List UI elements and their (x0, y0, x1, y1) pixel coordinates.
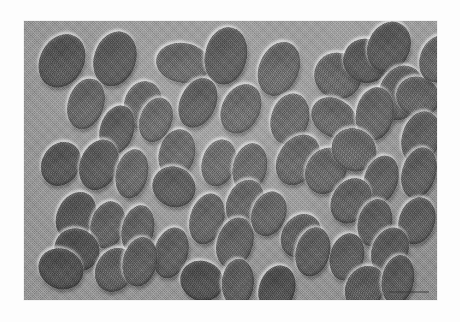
cell-51 (252, 261, 301, 300)
scale-bar (389, 291, 429, 293)
micrograph-image (24, 21, 437, 300)
figure-root (0, 0, 460, 322)
